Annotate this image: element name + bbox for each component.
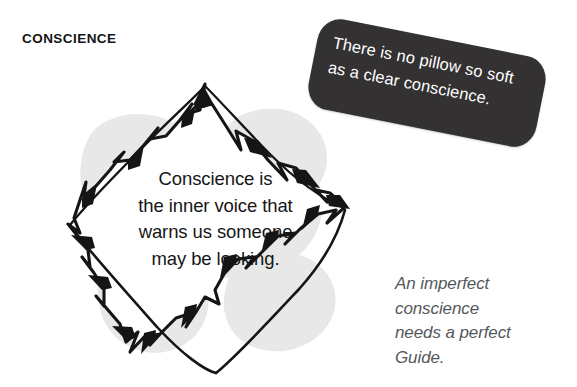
page-canvas: CONSCIENCE Conscience is the inner voice…	[0, 0, 577, 387]
burst-quote-line-1: Conscience is	[108, 166, 323, 193]
closing-note-text: An imperfect conscience needs a perfect …	[395, 272, 560, 370]
closing-note-line-1: An imperfect	[395, 272, 560, 297]
burst-quote-line-2: the inner voice that	[108, 193, 323, 220]
burst-quote-line-3: warns us someone	[108, 219, 323, 246]
closing-note-line-3: needs a perfect	[395, 321, 560, 346]
closing-note-line-4: Guide.	[395, 346, 560, 371]
burst-quote-text: Conscience is the inner voice that warns…	[108, 166, 323, 272]
burst-quote-line-4: may be looking.	[108, 246, 323, 273]
closing-note-line-2: conscience	[395, 297, 560, 322]
page-title: CONSCIENCE	[22, 31, 117, 46]
